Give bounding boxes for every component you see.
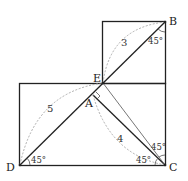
angle-label-C-upper: 45°: [151, 142, 166, 152]
angle-label-D: 45°: [31, 155, 46, 165]
angle-arc-B: [158, 29, 165, 32]
point-B-dot: [164, 21, 167, 24]
length-EB: 3: [121, 37, 127, 48]
label-D: D: [6, 161, 15, 174]
length-AC: 4: [117, 133, 123, 144]
angle-label-B: 45°: [148, 36, 163, 46]
segment-AC: [93, 95, 165, 165]
segment-EC: [103, 83, 165, 165]
point-C-dot: [164, 164, 167, 167]
angle-arc-C-upper: [159, 155, 165, 157]
label-B: B: [169, 15, 177, 28]
label-C: C: [169, 161, 177, 174]
angle-label-C-lower: 45°: [136, 155, 151, 165]
geometry-diagram: B E A D C 3 5 4 45° 45° 45° 45°: [0, 0, 188, 181]
point-E-dot: [102, 82, 105, 85]
angle-arc-D: [27, 158, 30, 165]
angle-arc-C-lower: [155, 158, 158, 165]
length-DE: 5: [47, 103, 53, 114]
label-E: E: [93, 72, 101, 85]
label-A: A: [84, 97, 94, 110]
point-D-dot: [19, 164, 22, 167]
bottom-rectangle: [20, 84, 166, 166]
